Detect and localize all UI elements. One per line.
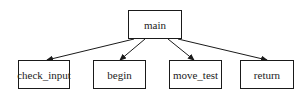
node-main-label: main: [144, 19, 166, 31]
edge-main-to-check-input: [47, 39, 134, 60]
edge-main-to-return: [178, 39, 267, 60]
node-return-label: return: [254, 69, 280, 81]
node-begin: begin: [93, 60, 146, 89]
node-begin-label: begin: [107, 69, 131, 81]
node-main: main: [128, 10, 182, 39]
call-tree-diagram: main check_input begin move_test return: [0, 0, 307, 100]
node-check-input: check_input: [18, 60, 70, 89]
node-return: return: [240, 60, 294, 89]
node-move-test: move_test: [169, 60, 222, 89]
edge-main-to-begin: [120, 39, 145, 60]
node-move-test-label: move_test: [173, 69, 218, 81]
node-check-input-label: check_input: [17, 69, 71, 81]
